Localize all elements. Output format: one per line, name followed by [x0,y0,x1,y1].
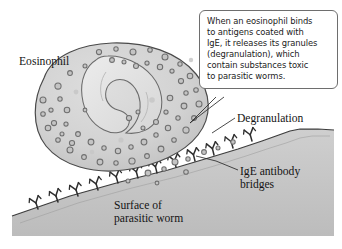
label-surface-line-1: Surface of [114,200,183,213]
callout-box: When an eosinophil binds to antigens coa… [199,10,338,89]
label-ige-antibody-bridges: IgE antibody bridges [240,166,300,191]
callout-line-2: to antigens coated with [207,27,331,38]
callout-line-6: to parasitic worms. [207,71,331,82]
callout-line-4: (degranulation), which [207,49,331,60]
callout-line-1: When an eosinophil binds [207,16,331,27]
label-surface-line-2: parasitic worm [114,213,183,226]
eosinophil-degranulation-figure: When an eosinophil binds to antigens coa… [0,0,342,249]
callout-line-5: contain substances toxic [207,60,331,71]
label-worm-surface: Surface of parasitic worm [114,200,183,225]
label-eosinophil: Eosinophil [19,56,69,69]
callout-line-3: IgE, it releases its granules [207,38,331,49]
label-ige-line-2: bridges [240,179,300,192]
label-ige-line-1: IgE antibody [240,166,300,179]
label-degranulation: Degranulation [237,113,303,126]
degranulation-leader [212,118,235,133]
